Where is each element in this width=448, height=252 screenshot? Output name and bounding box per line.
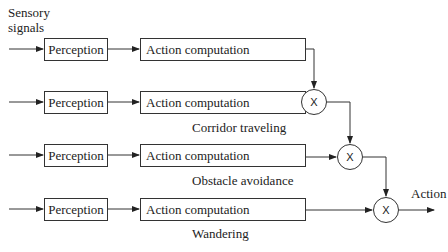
perception-box-2: Perception	[44, 91, 108, 114]
perception-box-4: Perception	[44, 198, 108, 221]
multiplier-node-3: X	[373, 197, 399, 223]
action-computation-box-1: Action computation	[140, 38, 306, 61]
action-computation-box-4: Action computation	[140, 198, 306, 221]
behavior-label-obstacle-avoidance: Obstacle avoidance	[192, 173, 293, 188]
perception-box-1: Perception	[44, 38, 108, 61]
action-computation-box-3: Action computation	[140, 144, 306, 167]
input-label: Sensory signals	[8, 5, 50, 35]
action-computation-box-2: Action computation	[140, 91, 306, 114]
multiplier-node-1: X	[301, 89, 327, 115]
behavior-label-corridor-traveling: Corridor traveling	[192, 120, 286, 135]
input-label-line-2: signals	[8, 20, 50, 35]
behavior-label-wandering: Wandering	[192, 226, 249, 241]
output-label-action: Action	[411, 186, 446, 201]
input-label-line-1: Sensory	[8, 5, 50, 20]
perception-box-3: Perception	[44, 144, 108, 167]
multiplier-node-2: X	[337, 144, 363, 170]
